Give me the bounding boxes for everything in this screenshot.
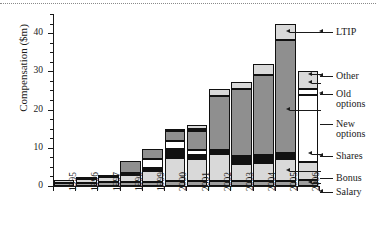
bar-segment-shares bbox=[142, 168, 163, 170]
bar-segment-shares bbox=[165, 149, 186, 158]
legend-label: Salary bbox=[336, 186, 362, 197]
x-tick-label: 1995 bbox=[69, 172, 79, 191]
bar-segment-new-options bbox=[187, 150, 208, 154]
x-tick-label: 2002 bbox=[224, 172, 234, 191]
bar-segment-old-options bbox=[187, 131, 208, 150]
legend-leader-line bbox=[320, 124, 333, 125]
y-tick-label: 40 bbox=[34, 28, 44, 38]
arrow-shaft bbox=[290, 32, 321, 33]
bar-segment-new-options bbox=[142, 159, 163, 169]
x-tick-label: 2003 bbox=[246, 172, 256, 191]
bar-segment-old-options bbox=[253, 75, 274, 155]
figure-canvas: Compensation ($m) 010203040 199519961997… bbox=[0, 0, 376, 228]
bar-segment-ltip bbox=[231, 82, 252, 90]
bar-segment-old-options bbox=[275, 40, 296, 153]
legend-arrow-head-icon bbox=[319, 73, 323, 77]
x-tick-label: 1998 bbox=[135, 172, 145, 191]
bar-segment-ltip bbox=[165, 129, 186, 131]
bar-segment-old-options bbox=[142, 149, 163, 159]
bar-segment-shares bbox=[231, 156, 252, 164]
legend-label: LTIP bbox=[336, 26, 356, 37]
x-tick-label: 2000 bbox=[179, 172, 189, 191]
arrow-shaft bbox=[290, 110, 321, 111]
x-tick-label: 2004 bbox=[268, 172, 278, 191]
bar-segment-shares bbox=[275, 153, 296, 159]
x-tick-label: 2001 bbox=[202, 172, 212, 191]
x-tick-label: 1999 bbox=[157, 172, 167, 191]
legend-label: Other bbox=[336, 70, 359, 81]
page-top-rule bbox=[0, 3, 376, 4]
legend-label-cont: options bbox=[336, 129, 365, 140]
bar-segment-ltip bbox=[209, 89, 230, 96]
bar-segment-old-options bbox=[231, 89, 252, 156]
y-axis-tick-labels: 010203040 bbox=[0, 14, 49, 186]
bar-segment-old-options bbox=[120, 161, 141, 173]
legend-arrow-head-icon bbox=[319, 29, 323, 33]
bar-segment-old-options bbox=[165, 131, 186, 141]
bar-segment-ltip bbox=[253, 64, 274, 75]
bar-segment-old-options bbox=[209, 96, 230, 150]
bar-segment-other bbox=[298, 89, 319, 95]
legend-arrow-head-icon bbox=[319, 189, 323, 193]
legend-label: Bonus bbox=[336, 172, 362, 183]
y-tick-label: 0 bbox=[38, 181, 43, 191]
plot-area bbox=[53, 14, 319, 186]
bar-segment-new-options bbox=[165, 141, 186, 149]
bar-segment-other bbox=[187, 129, 208, 131]
x-tick-label: 1997 bbox=[113, 172, 123, 191]
bar-series-group bbox=[53, 14, 319, 186]
legend-leader-line bbox=[320, 178, 333, 179]
y-tick-label: 10 bbox=[34, 143, 44, 153]
legend-label-cont: options bbox=[336, 99, 365, 110]
x-tick-label: 2005 bbox=[290, 172, 300, 191]
y-tick-label: 20 bbox=[34, 105, 44, 115]
chart-legend: LTIPOtherOldoptionsNewoptionsSharesBonus… bbox=[319, 14, 376, 194]
legend-arrow-head-icon bbox=[319, 153, 323, 157]
bar-segment-shares bbox=[187, 155, 208, 160]
bar-segment-shares bbox=[209, 150, 230, 154]
x-tick-label: 1996 bbox=[91, 172, 101, 191]
bar-segment-ltip bbox=[187, 125, 208, 129]
x-axis-tick-labels: 1995199619971998199920002001200220032004… bbox=[53, 190, 319, 228]
bar-segment-shares bbox=[253, 155, 274, 163]
legend-label: Shares bbox=[336, 150, 363, 161]
y-tick-label: 30 bbox=[34, 66, 44, 76]
legend-arrow-head-icon bbox=[319, 91, 323, 95]
